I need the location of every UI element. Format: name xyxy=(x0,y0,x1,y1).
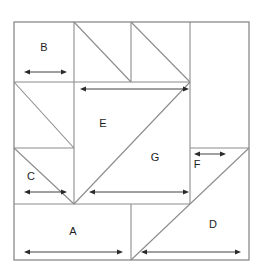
piece-label-c: C xyxy=(27,170,35,182)
diagonal-top-left-triangle xyxy=(74,22,131,82)
dimension-arrow-d xyxy=(141,249,241,254)
piece-label-g: G xyxy=(151,151,160,163)
dimension-arrow-e xyxy=(80,86,189,91)
dimension-arrow-c xyxy=(24,189,67,194)
diagram-canvas: B E G F C A D xyxy=(0,0,264,280)
diagonal-piece-c xyxy=(14,148,74,204)
piece-label-b: B xyxy=(40,41,47,53)
dimension-arrow-a xyxy=(24,249,123,254)
dimension-arrow-b xyxy=(24,69,67,74)
dimension-arrow-f xyxy=(194,151,226,156)
piece-label-e: E xyxy=(99,117,106,129)
dimension-arrow-g xyxy=(89,189,189,194)
diagonal-e-g-split xyxy=(74,82,190,204)
piece-label-d: D xyxy=(209,218,217,230)
piece-label-a: A xyxy=(69,225,77,237)
diagonal-left-upper-triangle xyxy=(14,82,74,148)
piece-label-f: F xyxy=(194,158,201,170)
dissection-diagram: B E G F C A D xyxy=(0,0,264,280)
diagonal-top-right-triangle xyxy=(131,22,190,82)
